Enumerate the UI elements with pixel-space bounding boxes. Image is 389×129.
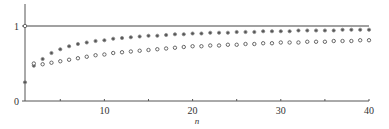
data-point-circle (350, 39, 353, 42)
data-point-dot (200, 32, 203, 35)
data-point-circle (23, 24, 26, 27)
data-point-circle (367, 39, 370, 42)
data-point-circle (270, 42, 273, 45)
data-point-circle (306, 40, 309, 43)
data-point-dot (85, 41, 88, 44)
data-point-circle (226, 43, 229, 46)
data-point-circle (323, 40, 326, 43)
data-point-dot (147, 34, 150, 37)
data-point-dot (350, 28, 353, 31)
data-point-circle (200, 45, 203, 48)
data-point-dot (68, 45, 71, 48)
data-point-circle (120, 51, 123, 54)
data-point-dot (367, 28, 370, 31)
data-point-circle (182, 45, 185, 48)
data-point-circle (85, 55, 88, 58)
data-point-circle (76, 57, 79, 60)
x-axis-label: n (195, 116, 200, 126)
data-point-dot (314, 29, 317, 32)
data-point-dot (41, 57, 44, 60)
x-tick-label: 20 (188, 105, 198, 116)
data-point-dot (129, 36, 132, 39)
data-point-dot (359, 28, 362, 31)
data-point-circle (209, 44, 212, 47)
sequence-scatter-plot: 1020304001 n (0, 0, 389, 129)
data-point-circle (112, 51, 115, 54)
data-point-circle (332, 39, 335, 42)
data-point-circle (50, 61, 53, 64)
data-point-circle (288, 41, 291, 44)
x-tick-label: 40 (364, 105, 374, 116)
data-point-dot (306, 29, 309, 32)
data-point-circle (244, 42, 247, 45)
y-tick-label: 1 (14, 21, 19, 32)
data-point-dot (120, 36, 123, 39)
data-point-circle (94, 54, 97, 57)
y-tick-label: 0 (14, 96, 19, 107)
data-point-dot (235, 30, 238, 33)
data-point-dot (270, 30, 273, 33)
data-point-circle (341, 39, 344, 42)
data-point-dot (103, 39, 106, 42)
data-point-dot (50, 51, 53, 54)
data-point-circle (173, 46, 176, 49)
data-point-circle (314, 40, 317, 43)
data-point-dot (332, 29, 335, 32)
x-tick-label: 10 (99, 105, 109, 116)
data-point-dot (323, 29, 326, 32)
data-point-circle (103, 53, 106, 56)
data-point-circle (41, 63, 44, 66)
data-points (23, 24, 370, 84)
data-point-dot (209, 31, 212, 34)
data-point-circle (253, 42, 256, 45)
data-point-dot (156, 34, 159, 37)
data-point-circle (358, 39, 361, 42)
data-point-dot (94, 39, 97, 42)
data-point-circle (297, 41, 300, 44)
data-point-dot (288, 30, 291, 33)
data-point-dot (165, 33, 168, 36)
x-tick-label: 30 (276, 105, 286, 116)
data-point-circle (217, 44, 220, 47)
data-point-dot (279, 30, 282, 33)
data-point-dot (297, 29, 300, 32)
data-point-dot (76, 42, 79, 45)
data-point-dot (138, 35, 141, 38)
data-point-dot (23, 81, 26, 84)
data-point-circle (156, 48, 159, 51)
data-point-circle (279, 41, 282, 44)
data-point-dot (244, 30, 247, 33)
data-point-circle (138, 49, 141, 52)
data-point-dot (191, 32, 194, 35)
data-point-circle (164, 47, 167, 50)
data-point-circle (129, 50, 132, 53)
data-point-circle (261, 42, 264, 45)
data-point-dot (112, 37, 115, 40)
data-point-dot (182, 33, 185, 36)
data-point-circle (235, 43, 238, 46)
data-point-circle (32, 62, 35, 65)
data-point-dot (341, 28, 344, 31)
data-point-dot (262, 30, 265, 33)
data-point-dot (226, 31, 229, 34)
data-point-circle (59, 60, 62, 63)
data-point-dot (217, 31, 220, 34)
data-point-circle (191, 45, 194, 48)
data-point-circle (67, 58, 70, 61)
data-point-dot (59, 48, 62, 51)
data-point-dot (253, 30, 256, 33)
data-point-circle (147, 48, 150, 51)
data-point-dot (173, 33, 176, 36)
